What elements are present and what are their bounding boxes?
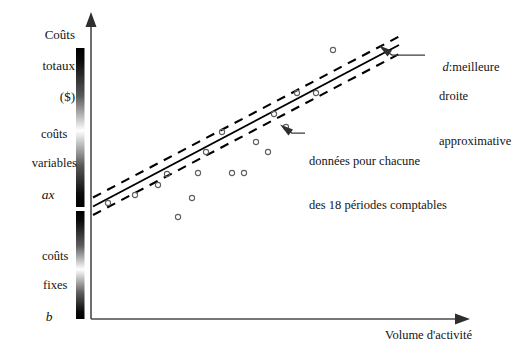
data-point [132, 192, 137, 197]
y-axis-arrowhead [86, 12, 97, 27]
y-axis-title-line1: Coûts [45, 27, 75, 42]
data-point [265, 149, 270, 154]
data-point [105, 200, 110, 205]
variable-cost-label: coûts variables ax [10, 112, 86, 232]
data-point [330, 47, 335, 52]
figure-canvas: Coûts totaux ($) coûts variables ax coût… [0, 0, 527, 354]
data-point [155, 182, 160, 187]
data-points-annotation-line2: des 18 périodes comptables [309, 198, 447, 213]
data-points-annotation: données pour chacune des 18 périodes com… [309, 124, 447, 242]
y-axis-title-line3: ($) [60, 89, 75, 104]
best-fit-line-annotation-line2: droite [430, 89, 511, 104]
data-annotation-arrowhead [280, 125, 293, 136]
x-axis-title: Volume d'activité [385, 328, 472, 343]
data-points-annotation-line1: données pour chacune [309, 154, 447, 169]
variable-cost-label-line2: variables [32, 156, 77, 170]
data-point [229, 170, 234, 175]
data-point [195, 170, 200, 175]
fixed-cost-label: coûts fixes b [11, 234, 87, 354]
y-axis-title-line2: totaux [43, 58, 76, 73]
fixed-cost-label-line2: fixes [43, 278, 67, 292]
y-axis-title: Coûts totaux ($) [30, 12, 76, 119]
variable-cost-label-line1: coûts [41, 127, 67, 141]
data-point [271, 111, 276, 116]
data-point [189, 195, 194, 200]
data-point [313, 90, 318, 95]
best-fit-line-annotation-line1: meilleure [452, 60, 499, 74]
data-point [253, 139, 258, 144]
fixed-cost-label-line1: coûts [42, 249, 68, 263]
data-point [241, 170, 246, 175]
variable-cost-symbol: ax [10, 187, 86, 203]
data-point [203, 149, 208, 154]
data-point [175, 214, 180, 219]
x-axis-arrowhead [455, 314, 470, 325]
fixed-cost-symbol: b [11, 309, 87, 325]
